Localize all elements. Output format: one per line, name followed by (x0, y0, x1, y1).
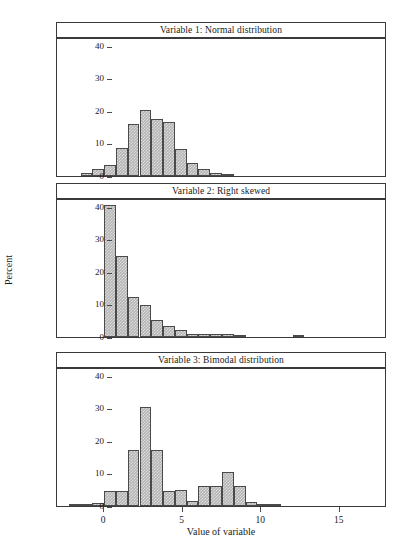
histogram-bar (222, 174, 234, 176)
histogram-bar (128, 450, 140, 506)
y-axis-tick-label: 0 (100, 170, 105, 183)
y-axis-tick-label: 40 (95, 40, 104, 53)
histogram-bar (187, 501, 199, 506)
histogram-bar (246, 502, 258, 506)
histogram-bar (210, 486, 222, 506)
histogram-bar (69, 504, 81, 506)
panel-title-variable-1: Variable 1: Normal distribution (56, 22, 386, 37)
bar-series-variable-2 (57, 200, 385, 337)
histogram-bar (116, 148, 128, 176)
histogram-bar (257, 504, 269, 506)
histogram-bar (234, 486, 246, 506)
y-axis-tick-label: 20 (95, 105, 104, 118)
histogram-bar (175, 490, 187, 506)
panel-variable-2: Variable 2: Right skewed 010203040 (56, 183, 386, 338)
histogram-bar (198, 169, 210, 176)
y-axis-tick-label: 10 (95, 137, 104, 150)
histogram-bar (104, 165, 116, 176)
histogram-bar (151, 320, 163, 337)
histogram-bar (175, 149, 187, 176)
histogram-bar (128, 297, 140, 337)
panel-variable-3: Variable 3: Bimodal distribution 0102030… (56, 352, 386, 507)
histogram-bar (116, 491, 128, 506)
panel-title-variable-2: Variable 2: Right skewed (56, 183, 386, 198)
histogram-bar (151, 119, 163, 176)
bar-series-variable-1 (57, 39, 385, 176)
x-axis-label: Value of variable (56, 525, 386, 538)
y-axis-tick-label: 40 (95, 201, 104, 214)
y-axis-tick-label: 0 (100, 331, 105, 344)
histogram-bar (104, 205, 116, 337)
histogram-bar (210, 334, 222, 337)
histogram-bar (104, 491, 116, 506)
y-axis-tick-label: 20 (95, 266, 104, 279)
histogram-bar (175, 330, 187, 337)
histogram-bar (81, 173, 93, 176)
histogram-bar (222, 334, 234, 337)
y-axis-label: Percent (2, 230, 16, 310)
y-axis-tick-label: 30 (95, 402, 104, 415)
y-axis-tick-label: 20 (95, 435, 104, 448)
y-axis-tick-label: 30 (95, 233, 104, 246)
histogram-bar (210, 173, 222, 176)
histogram-bar (128, 124, 140, 176)
y-axis-tick-label: 10 (95, 298, 104, 311)
histogram-bar (293, 335, 305, 337)
histogram-bar (234, 335, 246, 337)
histogram-bar (187, 163, 199, 176)
histogram-bar (163, 326, 175, 337)
plot-area-variable-1 (56, 37, 386, 177)
histogram-bar (187, 334, 199, 337)
histogram-figure: Variable 1: Normal distribution 01020304… (0, 0, 402, 542)
histogram-bar (198, 334, 210, 337)
histogram-bar (163, 122, 175, 176)
bar-series-variable-3 (57, 369, 385, 506)
histogram-bar (81, 504, 93, 506)
histogram-bar (269, 504, 281, 506)
histogram-bar (151, 450, 163, 506)
histogram-bar (140, 407, 152, 506)
histogram-bar (116, 256, 128, 337)
y-axis-tick-label: 10 (95, 467, 104, 480)
histogram-bar (198, 486, 210, 506)
histogram-bar (140, 305, 152, 337)
panel-title-variable-3: Variable 3: Bimodal distribution (56, 352, 386, 367)
plot-area-variable-2 (56, 198, 386, 338)
histogram-bar (140, 110, 152, 176)
y-axis-tick-label: 40 (95, 370, 104, 383)
panel-variable-1: Variable 1: Normal distribution 01020304… (56, 22, 386, 177)
y-axis-tick-label: 30 (95, 72, 104, 85)
histogram-bar (163, 491, 175, 506)
plot-area-variable-3 (56, 367, 386, 507)
histogram-bar (222, 472, 234, 506)
